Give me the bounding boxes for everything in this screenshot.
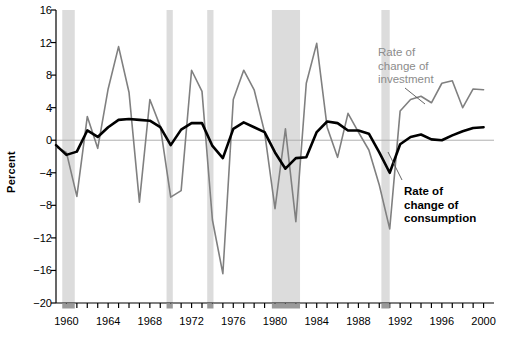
x-tick-label: 1988	[346, 315, 370, 327]
x-tick-label: 1984	[304, 315, 328, 327]
x-tick-label: 1980	[263, 315, 287, 327]
x-tick-label: 2000	[471, 315, 495, 327]
x-tick-label: 1960	[54, 315, 78, 327]
x-tick-label: 1964	[96, 315, 120, 327]
x-tick-label: 1996	[430, 315, 454, 327]
x-tick-label: 1968	[138, 315, 162, 327]
legend-label-investment: Rate of change of investment	[378, 46, 434, 87]
x-tick-label: 1972	[179, 315, 203, 327]
x-tick-label: 1976	[221, 315, 245, 327]
x-tick-label: 1992	[388, 315, 412, 327]
legend-label-consumption: Rate of change of consumption	[404, 185, 476, 226]
chart-container: Percent 1612840−4−8−12−16−20 19601964196…	[0, 0, 508, 344]
